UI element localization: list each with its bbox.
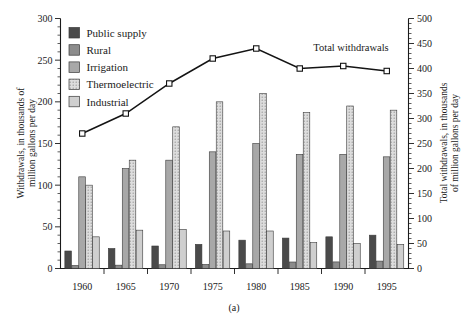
bar-public-supply-1960 [65, 251, 72, 269]
y2-axis-tick-label: 150 [417, 188, 432, 199]
total-withdrawals-annotation: Total withdrawals [313, 42, 388, 53]
legend-label-irrigation: Irrigation [87, 61, 129, 73]
bar-industrial-1960 [93, 237, 100, 269]
bar-rural-1970 [159, 265, 166, 269]
bar-thermoelectric-1965 [129, 160, 136, 268]
bar-irrigation-1980 [253, 144, 260, 269]
total-withdrawals-marker-1970 [167, 81, 172, 86]
y2-axis-tick-label: 200 [417, 163, 432, 174]
bar-public-supply-1965 [108, 249, 115, 269]
bar-industrial-1995 [397, 244, 404, 268]
bar-rural-1975 [202, 264, 209, 268]
y-axis-tick-label: 50 [43, 221, 53, 232]
x-axis-tick-label: 1985 [290, 281, 310, 292]
total-withdrawals-marker-1975 [210, 56, 215, 61]
legend-swatch-public-supply [69, 28, 80, 39]
water-withdrawals-chart: 0501001502002503000501001502002503003504… [0, 0, 471, 326]
bar-irrigation-1960 [79, 177, 86, 269]
y-axis-tick-label: 250 [38, 55, 53, 66]
bar-irrigation-1995 [383, 157, 390, 269]
y-axis-title-line1: Withdrawals, in thousands of [16, 87, 26, 199]
figure-caption: (a) [228, 302, 239, 314]
legend-swatch-thermoelectric [69, 79, 80, 90]
bar-industrial-1980 [267, 231, 274, 269]
x-axis-tick-label: 1975 [203, 281, 223, 292]
bar-public-supply-1995 [369, 235, 376, 268]
legend-swatch-rural [69, 45, 80, 56]
bar-public-supply-1980 [239, 240, 246, 268]
legend-label-thermoelectric: Thermoelectric [87, 78, 154, 90]
bar-public-supply-1970 [152, 246, 159, 269]
bar-irrigation-1975 [209, 152, 216, 269]
total-withdrawals-marker-1995 [384, 68, 389, 73]
bar-industrial-1990 [354, 244, 361, 269]
bar-rural-1990 [333, 262, 340, 269]
y-axis-tick-label: 0 [48, 263, 53, 274]
x-axis-tick-label: 1965 [116, 281, 136, 292]
legend-label-industrial: Industrial [87, 96, 129, 108]
bar-thermoelectric-1970 [173, 127, 180, 269]
bar-irrigation-1990 [340, 154, 347, 268]
y-axis-tick-label: 100 [38, 180, 53, 191]
bar-public-supply-1985 [282, 238, 289, 268]
total-withdrawals-marker-1960 [80, 131, 85, 136]
bar-rural-1965 [115, 265, 122, 268]
bar-irrigation-1985 [296, 154, 303, 268]
bar-thermoelectric-1975 [216, 102, 223, 269]
bar-rural-1960 [72, 266, 79, 269]
bar-industrial-1965 [136, 230, 143, 268]
total-withdrawals-marker-1980 [254, 46, 259, 51]
bar-thermoelectric-1995 [390, 110, 397, 268]
y-axis-title-line2: million gallons per day [27, 99, 37, 187]
bar-public-supply-1990 [326, 237, 333, 269]
bar-irrigation-1970 [166, 160, 173, 268]
legend-label-public-supply: Public supply [87, 27, 148, 39]
y2-axis-tick-label: 400 [417, 63, 432, 74]
bar-rural-1980 [246, 264, 253, 269]
total-withdrawals-marker-1985 [297, 66, 302, 71]
x-axis-tick-label: 1995 [377, 281, 397, 292]
y2-axis-tick-label: 250 [417, 138, 432, 149]
y2-axis-tick-label: 100 [417, 213, 432, 224]
bar-thermoelectric-1980 [260, 94, 267, 269]
y2-axis-tick-label: 350 [417, 88, 432, 99]
y-axis-tick-label: 300 [38, 13, 53, 24]
x-axis-tick-label: 1980 [246, 281, 266, 292]
total-withdrawals-marker-1990 [341, 63, 346, 68]
y2-axis-tick-label: 0 [417, 263, 422, 274]
y2-axis-title-line2: of million gallons per day [450, 94, 460, 192]
total-withdrawals-marker-1965 [123, 111, 128, 116]
y2-axis-tick-label: 50 [417, 238, 427, 249]
y-axis-tick-label: 200 [38, 96, 53, 107]
x-axis-tick-label: 1960 [72, 281, 92, 292]
y2-axis-tick-label: 300 [417, 113, 432, 124]
bar-thermoelectric-1985 [303, 113, 310, 269]
legend-swatch-irrigation [69, 62, 80, 73]
bar-public-supply-1975 [195, 244, 202, 268]
y2-axis-title-line1: Total withdrawals, in thousands [439, 82, 449, 203]
bar-industrial-1975 [223, 231, 230, 269]
legend-label-rural: Rural [87, 44, 111, 56]
y-axis-tick-label: 150 [38, 138, 53, 149]
legend-swatch-industrial [69, 96, 80, 107]
bar-thermoelectric-1960 [86, 185, 93, 268]
y2-axis-tick-label: 450 [417, 38, 432, 49]
chart-canvas: 0501001502002503000501001502002503003504… [0, 0, 471, 326]
y2-axis-tick-label: 500 [417, 13, 432, 24]
bar-irrigation-1965 [122, 169, 129, 269]
x-axis-tick-label: 1990 [333, 281, 353, 292]
bar-industrial-1985 [310, 243, 317, 269]
bar-rural-1995 [376, 261, 383, 268]
bar-rural-1985 [289, 262, 296, 269]
bar-industrial-1970 [180, 229, 187, 268]
bar-thermoelectric-1990 [347, 106, 354, 269]
x-axis-tick-label: 1970 [159, 281, 179, 292]
